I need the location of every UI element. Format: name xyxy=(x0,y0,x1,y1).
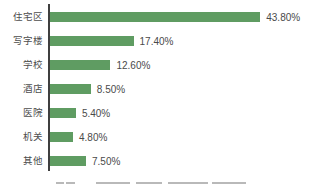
category-label: 酒店 xyxy=(0,84,43,94)
bar xyxy=(50,84,91,94)
bar-rows: 住宅区 43.80% 写字楼 17.40% 学校 12.60% 酒店 8.50%… xyxy=(0,5,316,173)
value-label: 7.50% xyxy=(92,156,120,167)
bar-wrap: 5.40% xyxy=(50,108,316,119)
bar xyxy=(50,132,73,142)
bar-row: 写字楼 17.40% xyxy=(0,29,316,53)
category-label: 住宅区 xyxy=(0,12,43,22)
bar xyxy=(50,60,110,70)
bar-row: 酒店 8.50% xyxy=(0,77,316,101)
value-label: 4.80% xyxy=(79,132,107,143)
category-label: 机关 xyxy=(0,132,43,142)
bar-row: 学校 12.60% xyxy=(0,53,316,77)
bar-row: 机关 4.80% xyxy=(0,125,316,149)
bar-row: 其他 7.50% xyxy=(0,149,316,173)
bar-wrap: 43.80% xyxy=(50,12,316,23)
bar-wrap: 12.60% xyxy=(50,60,316,71)
bar-wrap: 4.80% xyxy=(50,132,316,143)
value-label: 8.50% xyxy=(97,84,125,95)
bar-wrap: 8.50% xyxy=(50,84,316,95)
value-label: 5.40% xyxy=(82,108,110,119)
bar xyxy=(50,108,76,118)
category-label: 学校 xyxy=(0,60,43,70)
bar-wrap: 7.50% xyxy=(50,156,316,167)
category-label: 其他 xyxy=(0,156,43,166)
value-label: 12.60% xyxy=(116,60,150,71)
category-label: 写字楼 xyxy=(0,36,43,46)
bar xyxy=(50,36,134,46)
value-label: 43.80% xyxy=(266,12,300,23)
bar-wrap: 17.40% xyxy=(50,36,316,47)
value-label: 17.40% xyxy=(140,36,174,47)
bar xyxy=(50,156,86,166)
category-label: 医院 xyxy=(0,108,43,118)
bar xyxy=(50,12,260,22)
bar-row: 住宅区 43.80% xyxy=(0,5,316,29)
clipped-caption-fragment xyxy=(0,176,316,184)
horizontal-bar-chart: 住宅区 43.80% 写字楼 17.40% 学校 12.60% 酒店 8.50%… xyxy=(0,0,316,184)
bar-row: 医院 5.40% xyxy=(0,101,316,125)
